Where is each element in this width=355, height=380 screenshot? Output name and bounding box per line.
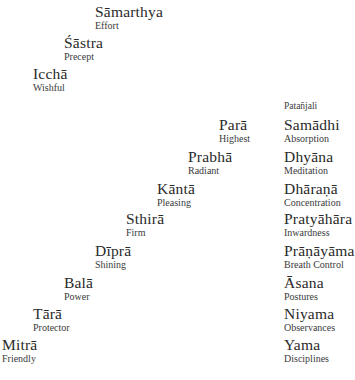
gloss: Highest <box>219 133 250 145</box>
term: Tārā <box>33 306 70 322</box>
limb-asana: Āsana Postures <box>284 275 324 303</box>
term: Niyama <box>284 306 335 322</box>
term: Prāṇāyāma <box>284 243 355 259</box>
ladder-step-sastra: Śāstra Precept <box>64 35 103 63</box>
gloss: Power <box>64 291 93 303</box>
term: Āsana <box>284 275 324 291</box>
limb-niyama: Niyama Observances <box>284 306 335 334</box>
ladder-step-dipra: Dīprā Shining <box>95 243 131 271</box>
ladder-step-tara: Tārā Protector <box>33 306 70 334</box>
gloss: Protector <box>33 322 70 334</box>
term: Dhāraṇā <box>284 181 341 197</box>
gloss: Firm <box>126 227 164 239</box>
gloss: Breath Control <box>284 259 355 271</box>
gloss: Pleasing <box>157 197 195 209</box>
ladder-step-para: Parā Highest <box>219 117 250 145</box>
gloss: Friendly <box>2 353 37 365</box>
ladder-step-sthira: Sthirā Firm <box>126 211 164 239</box>
ladder-step-kanta: Kāntā Pleasing <box>157 181 195 209</box>
limb-dhyana: Dhyāna Meditation <box>284 149 333 177</box>
gloss: Observances <box>284 322 335 334</box>
term: Sthirā <box>126 211 164 227</box>
ladder-step-prabha: Prabhā Radiant <box>188 149 232 177</box>
term: Yama <box>284 337 329 353</box>
term: Śāstra <box>64 35 103 51</box>
gloss: Inwardness <box>284 227 352 239</box>
ladder-step-samarthya: Sāmarthya Effort <box>95 4 163 32</box>
ladder-step-bala: Balā Power <box>64 275 93 303</box>
patanjali-heading: Patañjali <box>284 101 317 111</box>
term: Kāntā <box>157 181 195 197</box>
gloss: Radiant <box>188 165 232 177</box>
term: Sāmarthya <box>95 4 163 20</box>
gloss: Concentration <box>284 197 341 209</box>
term: Parā <box>219 117 250 133</box>
gloss: Effort <box>95 20 163 32</box>
gloss: Absorption <box>284 133 340 145</box>
term: Prabhā <box>188 149 232 165</box>
gloss: Shining <box>95 259 131 271</box>
term: Samādhi <box>284 117 340 133</box>
gloss: Meditation <box>284 165 333 177</box>
term: Icchā <box>33 66 68 82</box>
gloss: Wishful <box>33 82 68 94</box>
limb-pratyahara: Pratyāhāra Inwardness <box>284 211 352 239</box>
limb-samadhi: Samādhi Absorption <box>284 117 340 145</box>
term: Pratyāhāra <box>284 211 352 227</box>
gloss: Precept <box>64 51 103 63</box>
ladder-step-iccha: Icchā Wishful <box>33 66 68 94</box>
gloss: Postures <box>284 291 324 303</box>
limb-yama: Yama Disciplines <box>284 337 329 365</box>
term: Balā <box>64 275 93 291</box>
term: Dīprā <box>95 243 131 259</box>
gloss: Disciplines <box>284 353 329 365</box>
limb-dharana: Dhāraṇā Concentration <box>284 181 341 209</box>
ladder-step-mitra: Mitrā Friendly <box>2 337 37 365</box>
term: Dhyāna <box>284 149 333 165</box>
limb-pranayama: Prāṇāyāma Breath Control <box>284 243 355 271</box>
term: Mitrā <box>2 337 37 353</box>
